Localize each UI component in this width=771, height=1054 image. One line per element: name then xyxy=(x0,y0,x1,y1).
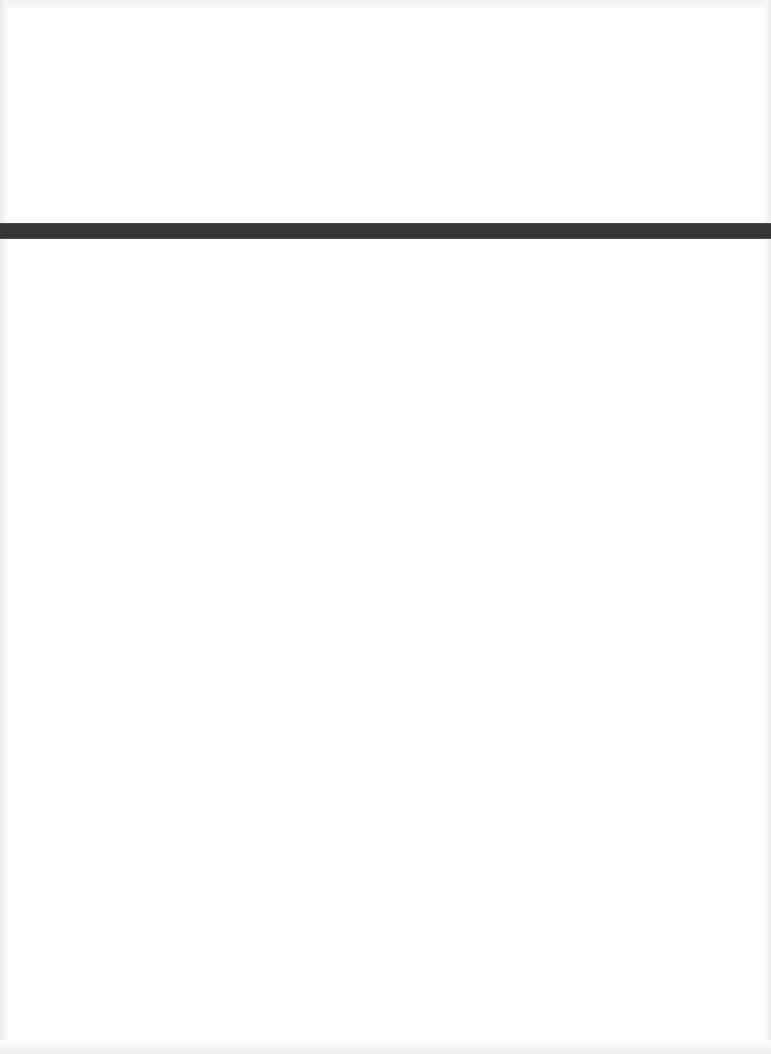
horizontal-rule xyxy=(0,223,771,239)
scan-edge-bottom xyxy=(0,1040,771,1054)
document-page xyxy=(0,0,771,1054)
scan-edge-top xyxy=(0,0,771,10)
scan-edge-right xyxy=(765,0,771,1054)
scan-edge-left xyxy=(0,0,7,1054)
